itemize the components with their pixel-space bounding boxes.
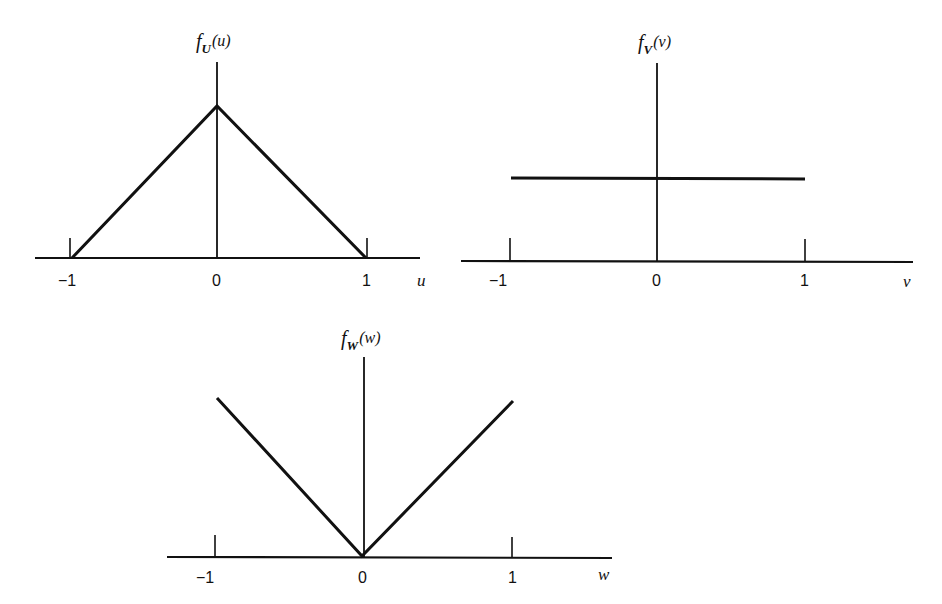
argument-u: (u) <box>212 32 231 50</box>
argument-v: (v) <box>653 33 671 51</box>
curve-fw-v-shape <box>217 398 513 556</box>
x-axis-v <box>461 261 913 262</box>
tick-label-1-u: 1 <box>362 272 371 289</box>
x-axis-label-u: u <box>417 271 426 290</box>
y-axis-label-fv: fV(v) <box>638 31 671 57</box>
tick-label-0-w: 0 <box>358 569 367 586</box>
curve-fv-uniform <box>511 178 805 179</box>
x-axis-w <box>167 557 612 558</box>
plot-fu: −1 0 1 u fU(u) <box>35 30 426 290</box>
plot-fv: −1 0 1 v fV(v) <box>461 31 913 291</box>
curve-fu-triangle <box>72 106 366 258</box>
tick-label-minus-1-v: −1 <box>489 272 507 289</box>
x-axis-label-w: w <box>598 565 610 584</box>
tick-label-0-v: 0 <box>652 272 661 289</box>
x-axis-label-v: v <box>903 272 911 291</box>
y-axis-label-fu: fU(u) <box>196 30 231 56</box>
tick-label-minus-1-w: −1 <box>196 569 214 586</box>
tick-label-0-u: 0 <box>212 272 221 289</box>
plot-fw: −1 0 1 w fW(w) <box>167 327 612 586</box>
figure-canvas: −1 0 1 u fU(u) −1 0 1 v fV(v) −1 0 1 w f… <box>0 0 942 604</box>
y-axis-label-fw: fW(w) <box>341 327 380 353</box>
subscript-V: V <box>644 42 654 57</box>
subscript-U: U <box>202 41 212 56</box>
tick-label-1-v: 1 <box>800 272 809 289</box>
tick-label-minus-1-u: −1 <box>58 272 76 289</box>
subscript-W: W <box>347 338 360 353</box>
tick-label-1-w: 1 <box>508 569 517 586</box>
argument-w: (w) <box>359 329 380 347</box>
